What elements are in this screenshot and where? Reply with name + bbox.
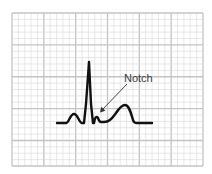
notch-label: Notch [124,72,153,84]
ecg-grid [12,13,203,166]
ecg-grid-svg: Notch [0,0,212,174]
ecg-diagram: Notch [0,0,212,174]
